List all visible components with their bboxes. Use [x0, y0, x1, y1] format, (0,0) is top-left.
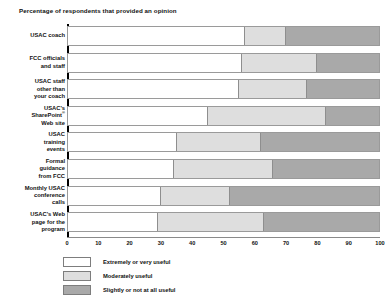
- bar-segment-0: [68, 54, 242, 72]
- bar-row: [67, 79, 380, 99]
- category-label: USAC'sSharePoint®Web site: [0, 105, 65, 127]
- stacked-bar: [67, 26, 380, 46]
- x-tick-label: 30: [158, 240, 164, 246]
- bar-segment-1: [245, 27, 285, 45]
- stacked-bar: [67, 186, 380, 206]
- bar-segment-1: [174, 160, 274, 178]
- bar-segment-0: [68, 133, 177, 151]
- bar-segment-1: [208, 107, 326, 125]
- stacked-bar: [67, 159, 380, 179]
- stacked-bar: [67, 106, 380, 126]
- bar-row: [67, 106, 380, 126]
- legend-item: Extremely or very useful: [63, 255, 293, 269]
- legend-label: Moderately useful: [103, 273, 152, 279]
- x-tick-label: 80: [314, 240, 320, 246]
- stacked-bar: [67, 132, 380, 152]
- x-tick-label: 100: [375, 240, 384, 246]
- stacked-bar: [67, 53, 380, 73]
- plot-area: USAC coachFCC officialsand staffUSAC sta…: [67, 24, 380, 237]
- x-tick-label: 50: [220, 240, 226, 246]
- bar-segment-1: [239, 80, 307, 98]
- page-title: Percentage of respondents that provided …: [19, 7, 177, 14]
- bar-row: [67, 53, 380, 73]
- legend-swatch: [63, 271, 91, 281]
- stacked-bar: [67, 212, 380, 232]
- x-tick-label: 40: [189, 240, 195, 246]
- bar-segment-0: [68, 27, 245, 45]
- bar-row: [67, 212, 380, 232]
- chart-legend: Extremely or very usefulModerately usefu…: [63, 255, 293, 297]
- bar-segment-1: [242, 54, 317, 72]
- x-tick-label: 0: [65, 240, 68, 246]
- legend-swatch: [63, 257, 91, 267]
- x-tick-label: 20: [126, 240, 132, 246]
- legend-item: Moderately useful: [63, 269, 293, 283]
- bar-row: [67, 159, 380, 179]
- bar-segment-2: [264, 213, 379, 231]
- legend-label: Slightly or not at all useful: [103, 287, 175, 293]
- x-tick-label: 60: [252, 240, 258, 246]
- category-label: FCC officialsand staff: [0, 55, 65, 70]
- bar-segment-0: [68, 80, 239, 98]
- category-label: Monthly USACconferencecalls: [0, 185, 65, 207]
- bar-segment-2: [326, 107, 379, 125]
- bar-segment-2: [273, 160, 379, 178]
- bar-segment-2: [286, 27, 379, 45]
- x-tick-label: 10: [95, 240, 101, 246]
- bar-segment-2: [261, 133, 379, 151]
- bar-segment-0: [68, 107, 208, 125]
- category-label: Formalguidancefrom FCC: [0, 158, 65, 180]
- bar-segment-0: [68, 160, 174, 178]
- legend-swatch: [63, 285, 91, 295]
- bar-segment-1: [158, 213, 264, 231]
- bar-segment-2: [307, 80, 379, 98]
- x-axis-line: [67, 237, 380, 238]
- category-label: USAC's Webpage for theprogram: [0, 211, 65, 233]
- bar-row: [67, 132, 380, 152]
- x-axis: 0102030405060708090100: [67, 237, 380, 251]
- bar-segment-0: [68, 187, 161, 205]
- bar-segment-2: [317, 54, 379, 72]
- bar-segment-2: [230, 187, 379, 205]
- bar-segment-1: [177, 133, 261, 151]
- bar-segment-0: [68, 213, 158, 231]
- stacked-bar-chart: Percentage of respondents that provided …: [0, 0, 388, 306]
- category-label: USAC staffother thanyour coach: [0, 78, 65, 100]
- bar-row: [67, 26, 380, 46]
- stacked-bar: [67, 79, 380, 99]
- bar-row: [67, 186, 380, 206]
- x-tick-label: 90: [346, 240, 352, 246]
- category-label: USACtrainingevents: [0, 131, 65, 153]
- category-label: USAC coach: [0, 32, 65, 39]
- x-tick-label: 70: [283, 240, 289, 246]
- legend-label: Extremely or very useful: [103, 259, 170, 265]
- bar-segment-1: [161, 187, 229, 205]
- legend-item: Slightly or not at all useful: [63, 283, 293, 297]
